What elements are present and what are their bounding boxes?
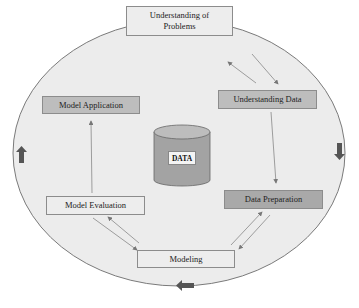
node-label-line2: Problems bbox=[163, 21, 195, 32]
node-label: Understanding Data bbox=[233, 94, 301, 105]
data-center-label: DATA bbox=[168, 151, 196, 165]
node-model-application: Model Application bbox=[42, 96, 140, 114]
node-label: Data Preparation bbox=[245, 194, 302, 205]
node-label: Model Evaluation bbox=[65, 200, 126, 211]
node-understanding-problems: Understanding of Problems bbox=[126, 6, 233, 36]
node-model-evaluation: Model Evaluation bbox=[46, 196, 145, 215]
node-label: Modeling bbox=[169, 254, 202, 265]
node-understanding-data: Understanding Data bbox=[218, 90, 317, 109]
node-label: Model Application bbox=[59, 100, 123, 111]
node-label-line1: Understanding of bbox=[150, 10, 209, 21]
node-modeling: Modeling bbox=[137, 250, 235, 268]
node-data-preparation: Data Preparation bbox=[224, 190, 323, 209]
